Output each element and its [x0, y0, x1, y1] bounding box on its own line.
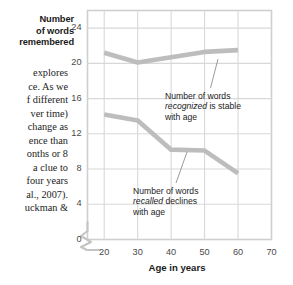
x-tick-label: 40 — [160, 247, 182, 257]
annotation-recognized-line2-rest: is stable — [207, 101, 241, 111]
y-tick-label: 4 — [60, 198, 82, 208]
annotation-recalled-emphasis: recalled — [133, 196, 163, 206]
x-tick-label: 20 — [93, 247, 115, 257]
x-tick-label: 50 — [194, 247, 216, 257]
annotation-recalled-line2-rest: declines — [163, 196, 197, 206]
chart-plot-area: 04812162024 203040506070 Age in years Nu… — [0, 0, 293, 285]
x-tick-label: 60 — [227, 247, 249, 257]
x-axis-title: Age in years — [122, 262, 232, 273]
y-tick-label: 8 — [60, 163, 82, 173]
annotation-recalled-line2: recalled declines — [133, 196, 198, 206]
x-tick-label: 30 — [127, 247, 149, 257]
annotation-recognized-line2: recognized is stable — [165, 101, 241, 111]
y-tick-label: 0 — [60, 234, 82, 244]
annotation-recalled-line3: with age — [133, 207, 198, 217]
y-tick-label: 24 — [60, 22, 82, 32]
annotation-recalled-line1: Number of words — [133, 186, 198, 196]
y-tick-label: 12 — [60, 128, 82, 138]
annotation-recognized-emphasis: recognized — [165, 101, 207, 111]
annotation-recalled: Number of words recalled declines with a… — [133, 186, 198, 217]
annotation-recognized: Number of words recognized is stable wit… — [165, 91, 241, 122]
x-tick-label: 70 — [261, 247, 283, 257]
figure-root: explores ce. As we f different ver time)… — [0, 0, 293, 285]
chart-svg — [0, 0, 293, 285]
y-tick-label: 16 — [60, 93, 82, 103]
annotation-recognized-line3: with age — [165, 112, 241, 122]
annotation-recognized-line1: Number of words — [165, 91, 241, 101]
y-tick-label: 20 — [60, 57, 82, 67]
